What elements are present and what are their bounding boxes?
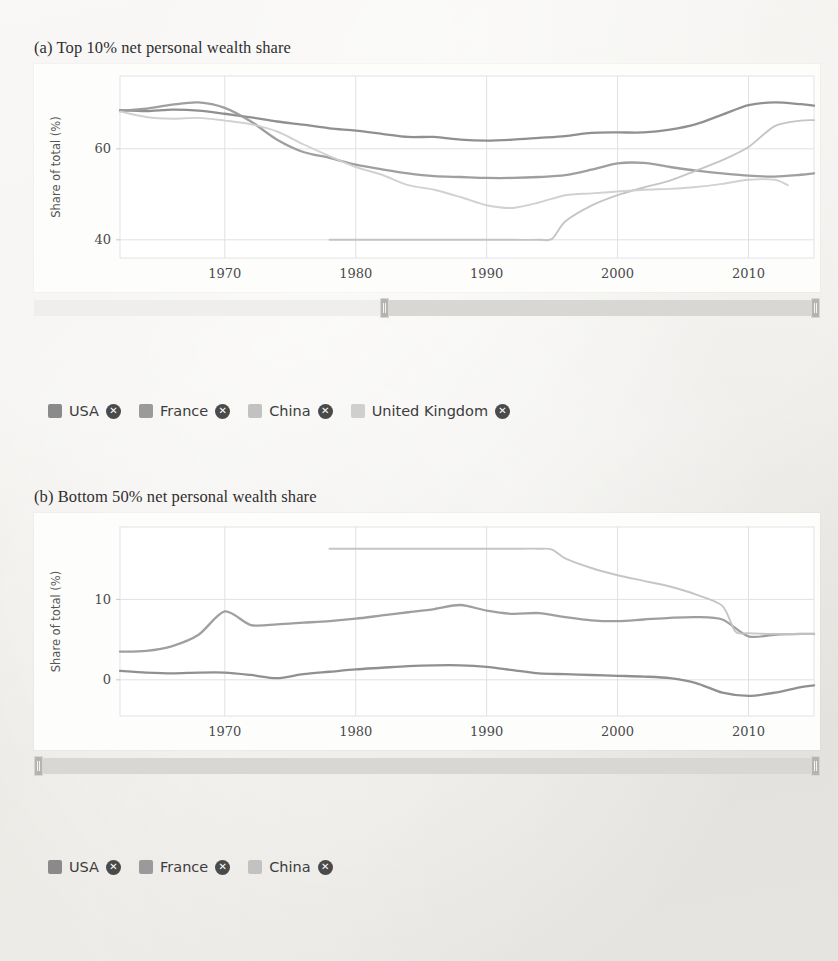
figure-a-range-slider[interactable] bbox=[34, 298, 820, 318]
figure-b: (b) Bottom 50% net personal wealth share… bbox=[0, 487, 838, 875]
svg-text:1990: 1990 bbox=[470, 724, 503, 739]
figure-b-legend: USA✕France✕China✕ bbox=[48, 859, 838, 875]
legend-remove-icon[interactable]: ✕ bbox=[106, 860, 121, 875]
figure-a-svg: 406019701980199020002010Share of total (… bbox=[34, 64, 820, 292]
svg-text:10: 10 bbox=[94, 592, 111, 607]
legend-label: China bbox=[269, 403, 310, 419]
legend-item-france[interactable]: France✕ bbox=[139, 859, 230, 875]
svg-text:Share of total (%): Share of total (%) bbox=[49, 116, 63, 217]
page-root: (a) Top 10% net personal wealth share 40… bbox=[0, 0, 838, 961]
legend-item-united-kingdom[interactable]: United Kingdom✕ bbox=[351, 403, 510, 419]
svg-text:2010: 2010 bbox=[732, 266, 765, 281]
figure-a-plot[interactable]: 406019701980199020002010Share of total (… bbox=[34, 64, 820, 292]
svg-text:2000: 2000 bbox=[601, 266, 634, 281]
legend-item-usa[interactable]: USA✕ bbox=[48, 859, 121, 875]
figure-b-range-slider[interactable] bbox=[34, 756, 820, 776]
legend-label: France bbox=[160, 859, 208, 875]
figure-a-title: (a) Top 10% net personal wealth share bbox=[34, 38, 838, 58]
figure-b-slider-track[interactable] bbox=[34, 758, 820, 774]
legend-remove-icon[interactable]: ✕ bbox=[318, 404, 333, 419]
figure-b-svg: 01019701980199020002010Share of total (%… bbox=[34, 513, 820, 750]
figure-b-chart-card: 01019701980199020002010Share of total (%… bbox=[34, 513, 820, 750]
svg-text:1980: 1980 bbox=[339, 266, 372, 281]
legend-remove-icon[interactable]: ✕ bbox=[215, 860, 230, 875]
legend-label: France bbox=[160, 403, 208, 419]
legend-remove-icon[interactable]: ✕ bbox=[495, 404, 510, 419]
legend-swatch-icon bbox=[248, 860, 262, 874]
figure-b-title: (b) Bottom 50% net personal wealth share bbox=[34, 487, 838, 507]
svg-text:60: 60 bbox=[94, 141, 111, 156]
figure-b-slider-handle-left[interactable] bbox=[34, 756, 43, 776]
figure-b-slider-handle-right[interactable] bbox=[811, 756, 820, 776]
legend-swatch-icon bbox=[48, 860, 62, 874]
figure-b-plot[interactable]: 01019701980199020002010Share of total (%… bbox=[34, 513, 820, 750]
figure-a: (a) Top 10% net personal wealth share 40… bbox=[0, 38, 838, 419]
svg-text:1970: 1970 bbox=[208, 266, 241, 281]
legend-remove-icon[interactable]: ✕ bbox=[215, 404, 230, 419]
svg-text:2010: 2010 bbox=[732, 724, 765, 739]
legend-remove-icon[interactable]: ✕ bbox=[318, 860, 333, 875]
legend-swatch-icon bbox=[139, 860, 153, 874]
figure-a-slider-handle-left[interactable] bbox=[380, 298, 389, 318]
legend-swatch-icon bbox=[351, 404, 365, 418]
legend-label: United Kingdom bbox=[372, 403, 488, 419]
figure-a-legend: USA✕France✕China✕United Kingdom✕ bbox=[48, 403, 838, 419]
legend-swatch-icon bbox=[248, 404, 262, 418]
svg-text:2000: 2000 bbox=[601, 724, 634, 739]
figure-a-slider-track[interactable] bbox=[380, 300, 820, 316]
legend-item-china[interactable]: China✕ bbox=[248, 403, 332, 419]
svg-text:1980: 1980 bbox=[339, 724, 372, 739]
legend-swatch-icon bbox=[139, 404, 153, 418]
legend-label: USA bbox=[69, 403, 99, 419]
svg-text:Share of total (%): Share of total (%) bbox=[49, 571, 63, 672]
legend-remove-icon[interactable]: ✕ bbox=[106, 404, 121, 419]
figure-a-slider-handle-right[interactable] bbox=[811, 298, 820, 318]
svg-text:1970: 1970 bbox=[208, 724, 241, 739]
figure-a-chart-card: 406019701980199020002010Share of total (… bbox=[34, 64, 820, 292]
legend-label: China bbox=[269, 859, 310, 875]
svg-text:0: 0 bbox=[103, 672, 111, 687]
svg-text:1990: 1990 bbox=[470, 266, 503, 281]
legend-item-usa[interactable]: USA✕ bbox=[48, 403, 121, 419]
legend-swatch-icon bbox=[48, 404, 62, 418]
legend-label: USA bbox=[69, 859, 99, 875]
legend-item-china[interactable]: China✕ bbox=[248, 859, 332, 875]
legend-item-france[interactable]: France✕ bbox=[139, 403, 230, 419]
svg-text:40: 40 bbox=[94, 232, 111, 247]
